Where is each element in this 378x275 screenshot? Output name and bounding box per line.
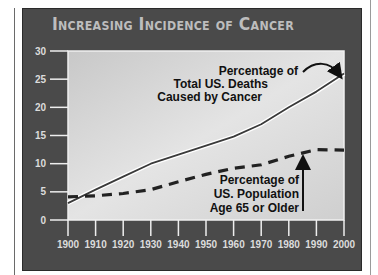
x-tick-label: 1950 (195, 239, 218, 250)
x-tick-label: 1940 (167, 239, 190, 250)
x-tick-label: 1960 (222, 239, 245, 250)
y-axis: 051015202530 (35, 46, 68, 226)
y-tick-label: 20 (35, 102, 47, 113)
annotation-deaths-line-3: Caused by Cancer (157, 90, 262, 104)
y-tick-label: 0 (40, 215, 46, 226)
x-tick-label: 1920 (112, 239, 135, 250)
x-tick-label: 1970 (250, 239, 273, 250)
annotation-age65-line-1: Percentage of (220, 173, 300, 187)
x-tick-label: 2000 (333, 239, 356, 250)
x-tick-label: 1980 (278, 239, 301, 250)
y-tick-label: 25 (35, 74, 47, 85)
x-tick-label: 1900 (57, 239, 80, 250)
x-tick-label: 1930 (140, 239, 163, 250)
annotation-age65-line-2: US. Population (214, 187, 299, 201)
y-tick-label: 10 (35, 158, 47, 169)
y-tick-label: 5 (40, 186, 46, 197)
x-axis: 1900191019201930194019501960197019801990… (57, 220, 356, 250)
y-tick-label: 15 (35, 130, 47, 141)
annotation-deaths-line-1: Percentage of (219, 64, 299, 78)
y-tick-label: 30 (35, 46, 47, 57)
chart-svg: 051015202530 190019101920193019401950196… (0, 0, 378, 275)
x-tick-label: 1910 (84, 239, 107, 250)
annotation-deaths-line-2: Total US. Deaths (174, 77, 269, 91)
annotation-age65-line-3: Age 65 or Older (210, 201, 300, 215)
x-tick-label: 1990 (305, 239, 328, 250)
